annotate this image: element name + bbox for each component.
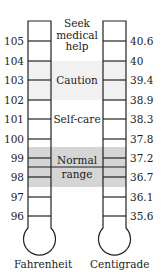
c-tick-37-8: 37.8 (130, 134, 153, 145)
centigrade-thermometer (99, 21, 131, 255)
f-tick-104: 104 (0, 56, 24, 67)
zone-seek-line3: help (51, 41, 103, 53)
f-tick-97: 97 (0, 192, 24, 203)
f-tick-102: 102 (0, 95, 24, 106)
zone-seek-medical-help: Seek medical help (51, 18, 103, 53)
c-tick-39-4: 39.4 (130, 75, 153, 86)
f-tick-105: 105 (0, 36, 24, 47)
f-tick-96: 96 (0, 211, 24, 222)
f-tick-98: 98 (0, 172, 24, 183)
c-tick-40: 40 (130, 56, 143, 67)
fahrenheit-thermometer (24, 21, 56, 255)
f-tick-99: 99 (0, 153, 24, 164)
fahrenheit-label: Fahrenheit (14, 258, 72, 270)
zone-self-care: Self-care (51, 114, 103, 126)
f-tick-100: 100 (0, 134, 24, 145)
zone-caution: Caution (51, 75, 103, 87)
c-tick-37-2: 37.2 (130, 153, 153, 164)
c-tick-38-9: 38.9 (130, 95, 153, 106)
zone-normal-line2: range (51, 169, 103, 181)
f-tick-103: 103 (0, 75, 24, 86)
c-tick-40-6: 40.6 (130, 36, 153, 47)
zone-normal-range: Normal range (51, 155, 103, 181)
c-tick-35-6: 35.6 (130, 211, 153, 222)
centigrade-label: Centigrade (90, 258, 150, 270)
zone-normal-line1: Normal (51, 155, 103, 167)
c-tick-36-7: 36.7 (130, 172, 153, 183)
c-tick-38-3: 38.3 (130, 114, 153, 125)
c-tick-36-1: 36.1 (130, 192, 153, 203)
zone-seek-line1: Seek (51, 18, 103, 30)
f-tick-101: 101 (0, 114, 24, 125)
